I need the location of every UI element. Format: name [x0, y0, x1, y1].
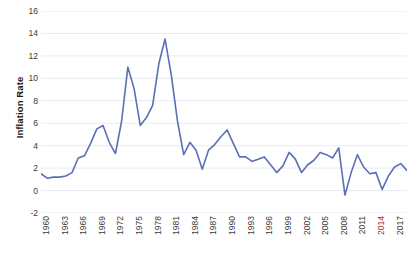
x-tick-label: 1987 — [208, 216, 218, 235]
y-tick-label: 6 — [22, 118, 38, 128]
x-tick-label: 1966 — [78, 216, 88, 235]
x-tick-label: 1975 — [134, 216, 144, 235]
x-tick-label: 1984 — [190, 216, 200, 235]
x-tick-label: 1972 — [115, 216, 125, 235]
y-tick-label: 8 — [22, 96, 38, 106]
x-tick-label: 1963 — [60, 216, 70, 235]
x-tick-label: 1993 — [246, 216, 256, 235]
x-tick-label: 2008 — [339, 216, 349, 235]
y-tick-label: 12 — [22, 51, 38, 61]
y-tick-label: -2 — [22, 208, 38, 218]
x-tick-label: 2017 — [395, 216, 405, 235]
x-tick-label: 2002 — [302, 216, 312, 235]
x-tick-label: 1969 — [97, 216, 107, 235]
x-tick-label: 2014 — [376, 216, 386, 235]
data-series-group — [41, 39, 407, 195]
y-tick-label: 10 — [22, 73, 38, 83]
chart-canvas — [41, 11, 407, 213]
x-tick-label: 1999 — [283, 216, 293, 235]
y-tick-label: 2 — [22, 163, 38, 173]
plot-area — [41, 11, 407, 213]
x-tick-label: 1978 — [153, 216, 163, 235]
y-tick-label: 16 — [22, 6, 38, 16]
x-tick-label: 1960 — [41, 216, 51, 235]
x-tick-label: 1990 — [227, 216, 237, 235]
series-line — [41, 39, 407, 195]
x-tick-label: 2005 — [320, 216, 330, 235]
y-tick-label: 0 — [22, 186, 38, 196]
x-axis-tick-labels: 1960196319661969197219751978198119841987… — [41, 214, 407, 263]
gridlines — [41, 11, 407, 213]
y-tick-label: 4 — [22, 141, 38, 151]
x-tick-label: 1981 — [171, 216, 181, 235]
y-tick-label: 14 — [22, 28, 38, 38]
y-axis-tick-labels: -20246810121416 — [22, 0, 38, 263]
x-tick-label: 2011 — [357, 216, 367, 234]
inflation-rate-line-chart: Inflation Rate -20246810121416 196019631… — [0, 0, 414, 263]
x-tick-label: 1996 — [264, 216, 274, 235]
